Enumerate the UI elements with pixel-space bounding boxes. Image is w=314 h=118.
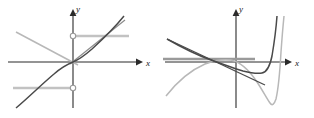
left-graph-panel: x y bbox=[0, 0, 157, 118]
left-y-axis-label: y bbox=[75, 4, 80, 14]
right-x-axis-arrow bbox=[285, 59, 292, 66]
right-graph-panel: x y bbox=[157, 0, 314, 118]
left-lower-open-circle-marker bbox=[70, 85, 75, 90]
two-panel-figure: x y x y bbox=[0, 0, 314, 118]
left-upper-open-circle-marker bbox=[70, 33, 75, 38]
right-x-axis-label: x bbox=[294, 58, 299, 68]
right-hump-then-plunge-light-curve bbox=[166, 16, 284, 105]
left-falling-line bbox=[16, 32, 78, 65]
left-panel-svg: x y bbox=[0, 0, 157, 118]
left-x-axis-label: x bbox=[145, 58, 150, 68]
left-axes bbox=[8, 9, 143, 108]
right-y-axis-label: y bbox=[238, 4, 243, 14]
right-panel-svg: x y bbox=[157, 0, 314, 118]
left-rising-tangent-line bbox=[70, 20, 125, 64]
left-x-axis-arrow bbox=[136, 59, 143, 66]
